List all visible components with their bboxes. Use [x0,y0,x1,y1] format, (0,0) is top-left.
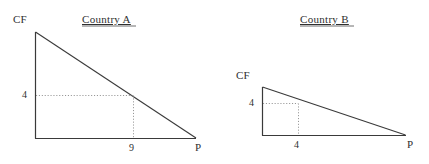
country-b-x-axis-label: P [407,139,413,150]
country-b-cf-line [263,87,406,135]
two-panel-cf-diagram: Country A CF 4 9 P Country B CF 4 4 P [0,0,429,164]
country-a-x-tick-label: 9 [129,142,134,153]
country-a-y-tick-label: 4 [22,89,27,100]
country-b-y-tick-label: 4 [249,97,254,108]
diagram-canvas [0,0,429,164]
country-b-y-axis-label: CF [236,70,250,81]
country-b-x-tick-label: 4 [294,139,299,150]
country-a-title: Country A [82,14,131,25]
country-a-y-axis-label: CF [13,14,27,25]
country-a-cf-line [36,32,197,138]
country-a-x-axis-label: P [195,142,201,153]
country-b-title: Country B [300,14,349,25]
country-a-plot [35,26,196,139]
country-b-plot [262,26,406,136]
